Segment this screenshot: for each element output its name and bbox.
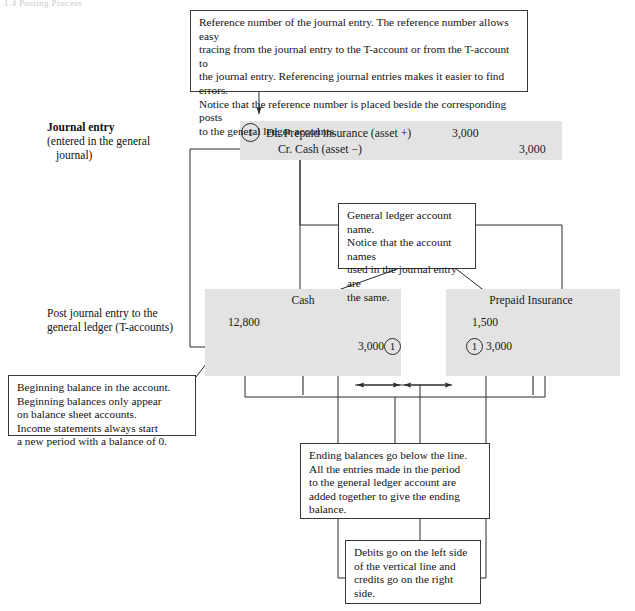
callout-line: side. <box>354 587 473 601</box>
t-account-prepaid-entry-amount: 3,000 <box>486 340 512 353</box>
callout-reference-number: Reference number of the journal entry. T… <box>190 10 528 92</box>
callout-line: Beginning balances only appear <box>17 395 188 409</box>
callout-line: Beginning balance in the account. <box>17 381 188 395</box>
callout-line: of the vertical line and <box>354 560 473 574</box>
reference-circle-prepaid-insurance: 1 <box>466 338 483 355</box>
label-posting-line1: Post journal entry to the <box>47 306 207 320</box>
t-account-cash-entry-amount: 3,000 <box>358 340 384 353</box>
callout-line: to the general ledger account are <box>309 476 482 490</box>
callout-line: on balance sheet accounts. <box>17 408 188 422</box>
callout-line: used in the journal entry are <box>347 263 468 290</box>
t-account-title-cash: Cash <box>253 294 353 307</box>
callout-debits-credits: Debits go on the left side of the vertic… <box>345 540 481 604</box>
reference-circle-journal: 1 <box>241 123 260 142</box>
callout-line: balance. <box>309 503 482 517</box>
callout-line: the same. <box>347 291 468 305</box>
callout-line: General ledger account name. <box>347 209 468 236</box>
diagram-canvas: 1.4 Posting Process . <box>0 0 635 611</box>
t-account-prepaid-beginning-balance: 1,500 <box>472 316 498 329</box>
label-posting-line2: general ledger (T-accounts) <box>47 320 207 334</box>
page-artifact: . <box>546 505 548 515</box>
reference-circle-cash: 1 <box>384 338 401 355</box>
callout-line: Income statements always start <box>17 422 188 436</box>
label-post-journal-entry: Post journal entry to the general ledger… <box>47 306 207 334</box>
callout-line: tracing from the journal entry to the T-… <box>199 43 520 70</box>
callout-line: added together to give the ending <box>309 490 482 504</box>
callout-line: Debits go on the left side <box>354 546 473 560</box>
callout-line: Reference number of the journal entry. T… <box>199 16 520 43</box>
callout-line: the journal entry. Referencing journal e… <box>199 70 520 97</box>
callout-account-name: General ledger account name. Notice that… <box>338 203 476 269</box>
callout-ending-balance: Ending balances go below the line. All t… <box>300 443 490 519</box>
callout-line: All the entries made in the period <box>309 463 482 477</box>
t-account-title-prepaid-insurance: Prepaid Insurance <box>466 294 596 307</box>
journal-credit-line: Cr. Cash (asset −) <box>278 142 362 156</box>
callout-line: Ending balances go below the line. <box>309 449 482 463</box>
callout-beginning-balance: Beginning balance in the account. Beginn… <box>8 375 196 436</box>
callout-line: Notice that the account names <box>347 236 468 263</box>
label-journal-entry-line2: (entered in the general <box>47 134 197 148</box>
callout-line: a new period with a balance of 0. <box>17 435 188 449</box>
callout-line: credits go on the right <box>354 573 473 587</box>
label-journal-entry-title: Journal entry <box>47 120 197 134</box>
label-journal-entry: Journal entry (entered in the general jo… <box>47 120 197 163</box>
page-header-fragment: 1.4 Posting Process <box>4 0 82 8</box>
t-account-cash-beginning-balance: 12,800 <box>228 316 260 329</box>
journal-credit-amount: 3,000 <box>519 142 546 157</box>
callout-line: Notice that the reference number is plac… <box>199 98 520 125</box>
label-journal-entry-line3: journal) <box>47 148 197 162</box>
